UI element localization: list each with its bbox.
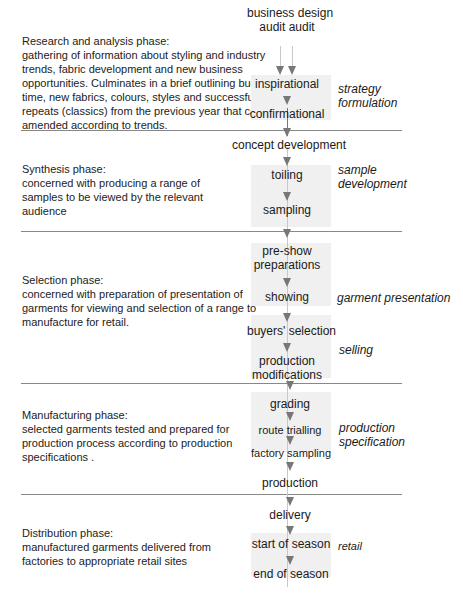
desc-line: production process according to producti…	[22, 436, 232, 450]
arrow-down-icon	[283, 192, 291, 201]
label-text: formulation	[338, 96, 397, 110]
arrow-down-icon	[286, 556, 294, 565]
desc-line: repeats (classics) from the previous yea…	[22, 104, 278, 118]
node-confirmational: confirmational	[247, 107, 327, 121]
arrow-down-icon	[286, 381, 294, 390]
desc-line: garments for viewing and selection of a …	[22, 301, 256, 315]
desc-line: selected garments tested and prepared fo…	[22, 422, 232, 436]
label-text: development	[338, 177, 407, 191]
label-retail: retail	[338, 539, 362, 553]
node-text: production	[247, 354, 327, 368]
label-text: production	[339, 421, 405, 435]
node-concept-development: concept development	[232, 138, 342, 152]
arrow-down-icon	[286, 412, 294, 421]
desc-line: opportunities. Culminates in a brief out…	[22, 76, 278, 90]
node-audit-audit: audit audit	[247, 20, 327, 34]
label-production-specification: production specification	[339, 421, 405, 449]
node-text: business	[247, 6, 294, 20]
phase-title: Selection phase:	[22, 273, 256, 287]
label-garment-presentation: garment presentation	[337, 291, 450, 305]
phase-title: Manufacturing phase:	[22, 408, 232, 422]
arrow-down-icon	[283, 278, 291, 287]
node-text: preparations	[247, 258, 327, 272]
arrow-down-icon	[288, 66, 296, 75]
phase-separator	[21, 231, 402, 232]
node-start-of-season: start of season	[250, 537, 332, 551]
desc-line: samples to be viewed by the relevant	[22, 190, 203, 204]
node-delivery: delivery	[250, 508, 330, 522]
node-sampling: sampling	[247, 203, 327, 217]
desc-line: time, new fabrics, colours, styles and s…	[22, 90, 278, 104]
node-text: audit	[289, 20, 315, 34]
phase-separator	[21, 130, 402, 131]
node-text: audit	[259, 20, 285, 34]
label-strategy-formulation: strategy formulation	[338, 82, 397, 110]
desc-line: audience	[22, 204, 203, 218]
node-buyers-selection: buyers' selection	[247, 324, 333, 338]
phase-title: Distribution phase:	[22, 526, 211, 540]
arrow-down-icon	[276, 66, 284, 75]
desc-line: manufacture for retail.	[22, 315, 256, 329]
arrow-down-icon	[283, 157, 291, 166]
arrow-down-icon	[283, 343, 291, 352]
label-selling: selling	[339, 343, 373, 357]
arrow-down-icon	[286, 462, 294, 471]
label-sample-development: sample development	[338, 163, 407, 191]
label-text: sample	[338, 163, 407, 177]
node-production: production	[250, 476, 330, 490]
arrow-down-icon	[283, 313, 291, 322]
phase-title: Synthesis phase:	[22, 162, 203, 176]
node-showing: showing	[247, 290, 327, 304]
phase-selection-description: Selection phase: concerned with preparat…	[22, 273, 256, 329]
phase-title: Research and analysis phase:	[22, 34, 278, 48]
node-factory-sampling: factory sampling	[250, 446, 332, 460]
desc-line: manufactured garments delivered from	[22, 540, 211, 554]
design-audit-line	[292, 46, 293, 68]
arrow-down-icon	[283, 229, 291, 238]
arrow-down-icon	[283, 96, 291, 105]
node-inspirational: inspirational	[247, 77, 327, 91]
arrow-down-icon	[286, 526, 294, 535]
node-business-design: business design	[247, 6, 327, 20]
business-audit-line	[280, 46, 281, 68]
arrow-down-icon	[286, 497, 294, 506]
node-text: pre-show	[247, 244, 327, 258]
desc-line: concerned with producing a range of	[22, 176, 203, 190]
node-toiling: toiling	[247, 168, 327, 182]
desc-line: factories to appropriate retail sites	[22, 554, 211, 568]
node-end-of-season: end of season	[250, 567, 332, 581]
node-text: modifications	[247, 368, 327, 382]
phase-distribution-description: Distribution phase: manufactured garment…	[22, 526, 211, 568]
label-text: specification	[339, 435, 405, 449]
desc-line: concerned with preparation of presentati…	[22, 287, 256, 301]
label-text: strategy	[338, 82, 397, 96]
desc-line: specifications .	[22, 450, 232, 464]
phase-research-description: Research and analysis phase: gathering o…	[22, 34, 278, 132]
phase-separator	[21, 383, 402, 384]
node-route-trialling: route trialling	[250, 423, 330, 437]
phase-separator	[21, 494, 402, 495]
phase-manufacturing-description: Manufacturing phase: selected garments t…	[22, 408, 232, 464]
arrow-down-icon	[283, 128, 291, 137]
arrow-down-icon	[286, 436, 294, 445]
node-text: design	[298, 6, 333, 20]
node-production-modifications: production modifications	[247, 354, 327, 382]
phase-synthesis-description: Synthesis phase: concerned with producin…	[22, 162, 203, 218]
node-pre-show-preparations: pre-show preparations	[247, 244, 327, 272]
desc-line: gathering of information about styling a…	[22, 48, 278, 62]
desc-line: trends, fabric development and new busin…	[22, 62, 278, 76]
node-grading: grading	[250, 397, 330, 411]
